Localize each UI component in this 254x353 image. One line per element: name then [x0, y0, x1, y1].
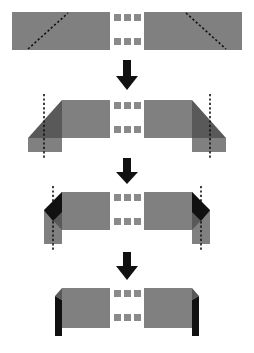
step2-right-body	[144, 100, 192, 138]
step4-right-body	[144, 288, 192, 328]
step2-left-band	[28, 138, 62, 152]
step3-left-body	[62, 192, 110, 230]
step4-left-body	[62, 288, 110, 328]
fold-instruction-diagram	[0, 0, 254, 353]
step3-right-body	[144, 192, 192, 230]
step2-left-body	[62, 100, 110, 138]
step2-right-band	[192, 138, 226, 152]
step4-right-leg	[192, 296, 199, 336]
step1-right-panel	[144, 12, 242, 50]
step1-left-panel	[12, 12, 110, 50]
step4-left-leg	[55, 296, 62, 336]
